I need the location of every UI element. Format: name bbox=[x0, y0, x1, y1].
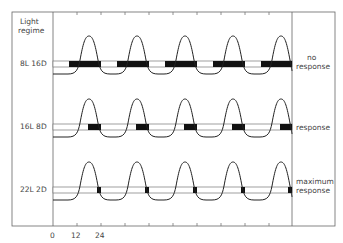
x-tick-label-0: 0 bbox=[50, 231, 55, 240]
x-tick-label-12: 12 bbox=[71, 231, 81, 240]
rhythm-curve bbox=[53, 99, 292, 137]
header-light: Light bbox=[20, 17, 39, 26]
x-tick-label-24: 24 bbox=[95, 231, 105, 240]
row-22l-2d: 22L 2D maximum response bbox=[20, 162, 334, 200]
outcome-line1: maximum bbox=[296, 177, 334, 186]
rhythm-curve bbox=[53, 36, 292, 74]
rhythm-curve bbox=[53, 162, 292, 200]
header-regime: regime bbox=[18, 26, 45, 35]
light-band bbox=[53, 187, 292, 193]
regime-label: 8L 16D bbox=[20, 59, 47, 68]
outcome-line1: no bbox=[307, 53, 317, 62]
row-8l-16d: 8L 16D no response bbox=[20, 36, 330, 74]
regime-label: 16L 8D bbox=[20, 122, 47, 131]
outcome-line2: response bbox=[296, 62, 330, 71]
outcome-line2: response bbox=[296, 186, 330, 195]
tick-marks bbox=[77, 12, 269, 226]
row-16l-8d: 16L 8D response bbox=[20, 99, 330, 137]
photoperiod-diagram: Light regime 0 12 24 8L 16D no response … bbox=[0, 0, 343, 243]
regime-label: 22L 2D bbox=[20, 185, 47, 194]
outcome-line1: response bbox=[296, 123, 330, 132]
